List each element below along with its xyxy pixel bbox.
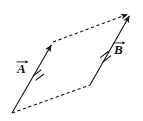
bottom-dashed-edge bbox=[12, 85, 90, 113]
vector-a-line bbox=[12, 45, 51, 113]
vector-a-label: A bbox=[17, 60, 26, 75]
arrow-overbar-icon bbox=[16, 59, 29, 64]
tick-mark-a bbox=[33, 70, 44, 81]
vector-diagram-figure: A B bbox=[0, 0, 143, 121]
vector-b-line bbox=[90, 16, 129, 85]
arrow-overbar-icon bbox=[113, 40, 126, 45]
vector-b-label: B bbox=[114, 41, 123, 56]
